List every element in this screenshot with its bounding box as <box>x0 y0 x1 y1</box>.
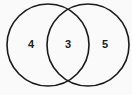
left-circle <box>7 4 89 86</box>
left-only-count: 4 <box>28 38 35 50</box>
venn-diagram: 4 3 5 <box>0 0 132 95</box>
right-circle <box>47 4 129 86</box>
right-only-count: 5 <box>102 38 108 50</box>
intersection-count: 3 <box>65 38 71 50</box>
